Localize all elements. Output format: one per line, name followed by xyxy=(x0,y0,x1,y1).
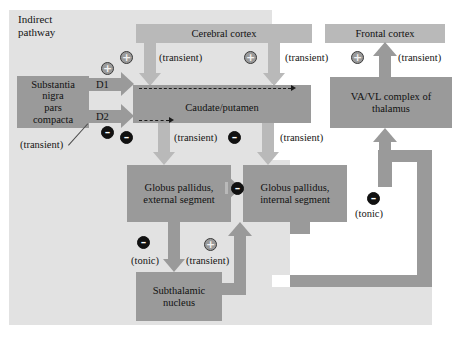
node-substantia-nigra-line2: nigra xyxy=(42,90,64,102)
node-gpi-line1: Globus pallidus, xyxy=(261,182,330,194)
arrow-gpe-to-stn-head xyxy=(163,259,185,272)
arrow-stn-to-gpi-vertical xyxy=(234,235,246,289)
plus-icon: + xyxy=(206,239,215,250)
arrow-gpi-to-thalamus-stub xyxy=(379,140,391,152)
minus-icon: – xyxy=(235,183,241,194)
arrow-cortex-to-caudate-right-shaft xyxy=(268,43,280,74)
receptor-d1-label: D1 xyxy=(96,79,109,90)
label-cortex-to-caudate-right: (transient) xyxy=(285,52,328,63)
minus-icon: – xyxy=(371,193,377,204)
sign-sn-d1-plus: + xyxy=(101,62,114,75)
gpi-output-stub xyxy=(290,222,310,234)
label-gpe-to-stn: (tonic) xyxy=(131,255,159,266)
node-caudate-putamen-label: Caudate/putamen xyxy=(185,102,258,114)
figure-title-line2: pathway xyxy=(18,26,55,39)
node-substantia-nigra-line3: pars xyxy=(44,102,62,114)
minus-icon: – xyxy=(105,127,111,138)
arrow-gpi-to-thalamus-horizontal xyxy=(290,275,417,287)
node-frontal-cortex-label: Frontal cortex xyxy=(355,28,414,39)
node-gpi-line2: internal segment xyxy=(260,194,330,206)
node-va-vl-thalamus: VA/VL complex of thalamus xyxy=(330,77,452,128)
minus-icon: – xyxy=(232,132,238,143)
gpi-output-clear xyxy=(310,222,417,234)
label-stn-to-gpi: (transient) xyxy=(186,255,229,266)
arrow-caudate-to-gpe-shaft xyxy=(158,123,170,153)
node-gpe-line1: Globus pallidus, xyxy=(145,182,214,194)
node-globus-pallidus-external: Globus pallidus, external segment xyxy=(127,165,231,222)
label-caudate-to-gpe: (transient) xyxy=(174,132,217,143)
node-substantia-nigra: Substantia nigra pars compacta xyxy=(17,76,89,128)
node-stn-line1: Subthalamic xyxy=(153,285,206,297)
arrow-gpe-to-stn-shaft xyxy=(168,222,180,259)
top-white-strip xyxy=(0,0,461,10)
arrow-caudate-to-gpi-head xyxy=(257,152,279,165)
plus-icon: + xyxy=(246,52,255,63)
dashed-d1-arrowhead xyxy=(291,85,296,91)
sign-thalamus-frontal-plus: + xyxy=(351,51,364,64)
plus-icon: + xyxy=(122,52,131,63)
sign-sn-d2-minus: – xyxy=(101,126,114,139)
label-caudate-to-gpi: (transient) xyxy=(280,132,323,143)
arrow-caudate-to-gpe-head xyxy=(153,152,175,165)
arrow-gpi-to-thalamus-vertical xyxy=(417,150,432,287)
dashed-d1-connector xyxy=(139,88,291,89)
label-sn-transient: (transient) xyxy=(20,139,63,150)
arrow-thalamus-to-frontal-shaft xyxy=(379,55,391,77)
minus-icon: – xyxy=(124,132,130,143)
minus-icon: – xyxy=(141,237,147,248)
receptor-d2-label: D2 xyxy=(96,111,109,122)
node-stn-line2: nucleus xyxy=(163,297,195,309)
sign-gpi-thalamus-minus: – xyxy=(367,192,380,205)
node-thalamus-line1: VA/VL complex of xyxy=(351,91,432,103)
arrow-caudate-to-gpi-shaft xyxy=(262,123,274,153)
sign-cortex-caudate-right-plus: + xyxy=(244,51,257,64)
arrow-stn-to-gpi-head xyxy=(228,222,252,236)
diagram-canvas: Indirect pathway Cerebral cortex + (tran… xyxy=(0,0,461,341)
sign-gpe-stn-minus: – xyxy=(137,236,150,249)
dashed-d2-connector xyxy=(139,120,169,121)
node-caudate-putamen: Caudate/putamen xyxy=(133,85,311,123)
plus-icon: + xyxy=(353,52,362,63)
plus-icon: + xyxy=(103,63,112,74)
node-substantia-nigra-line1: Substantia xyxy=(31,79,75,91)
sign-gpe-gpi-minus: – xyxy=(231,182,244,195)
label-gpi-to-thalamus: (tonic) xyxy=(355,208,383,219)
sign-cortex-caudate-left-plus: + xyxy=(120,51,133,64)
node-gpe-line2: external segment xyxy=(143,194,214,206)
arrow-cortex-to-caudate-left-shaft xyxy=(144,43,156,74)
figure-title-line1: Indirect xyxy=(18,13,55,26)
sign-caudate-gpe-minus: – xyxy=(120,131,133,144)
label-cortex-to-caudate-left: (transient) xyxy=(159,52,202,63)
sign-stn-gpi-plus: + xyxy=(204,238,217,251)
node-cerebral-cortex: Cerebral cortex xyxy=(136,24,312,43)
label-thalamus-to-frontal: (transient) xyxy=(398,52,441,63)
node-cerebral-cortex-label: Cerebral cortex xyxy=(191,28,256,39)
node-globus-pallidus-internal: Globus pallidus, internal segment xyxy=(243,165,347,222)
sign-caudate-gpi-minus: – xyxy=(228,131,241,144)
node-subthalamic-nucleus: Subthalamic nucleus xyxy=(136,272,222,321)
arrow-thalamus-to-frontal-head xyxy=(373,42,397,56)
node-substantia-nigra-line4: compacta xyxy=(33,114,73,126)
figure-title: Indirect pathway xyxy=(18,13,55,38)
node-thalamus-line2: thalamus xyxy=(372,103,410,115)
node-frontal-cortex: Frontal cortex xyxy=(325,24,445,43)
